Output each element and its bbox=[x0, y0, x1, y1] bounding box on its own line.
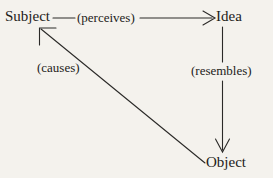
edge-label-resembles: (resembles) bbox=[191, 64, 252, 77]
edge-causes-line bbox=[41, 29, 205, 163]
edge-label-perceives: (perceives) bbox=[77, 11, 135, 24]
diagram-edges bbox=[0, 0, 273, 178]
edge-label-causes: (causes) bbox=[37, 61, 80, 74]
node-object: Object bbox=[206, 155, 246, 170]
node-idea: Idea bbox=[216, 9, 242, 24]
node-subject: Subject bbox=[5, 9, 50, 24]
edge-causes bbox=[40, 28, 206, 163]
edge-resembles bbox=[216, 27, 230, 152]
edge-causes-arrowhead bbox=[40, 28, 57, 45]
perception-diagram: Subject Idea Object (perceives) (resembl… bbox=[0, 0, 273, 178]
